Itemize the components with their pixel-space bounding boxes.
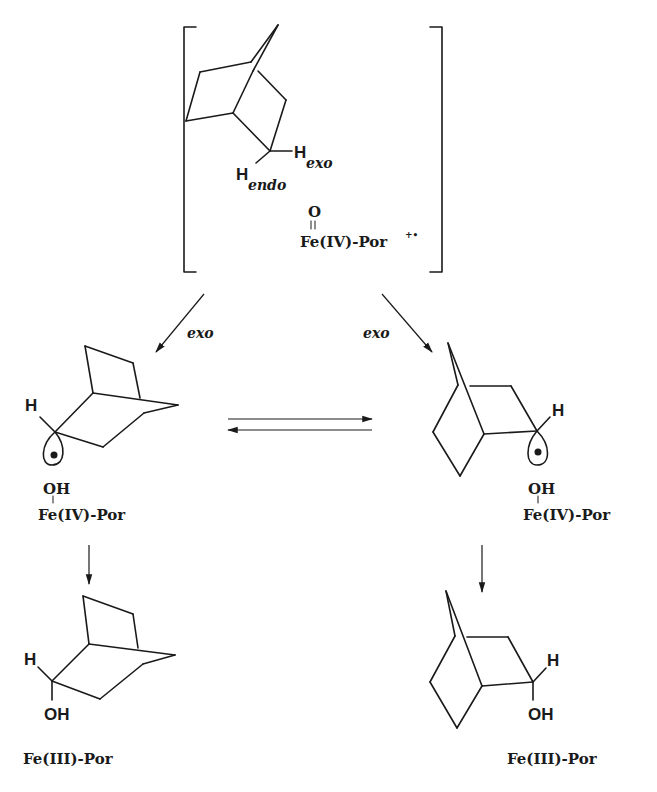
left-exo-label: exo: [187, 325, 214, 341]
reaction-scheme: H exo H endo O Fe(IV)-Por +• exo exo H O…: [0, 0, 657, 792]
right-radical-oh-label: OH: [528, 480, 555, 498]
right-radical-iron-label: Fe(IV)-Por: [523, 506, 611, 524]
norbornanol-left: [38, 596, 175, 700]
norbornane-structure-top: [186, 25, 292, 163]
radical-cation-superscript: +•: [405, 230, 418, 240]
right-exo-label: exo: [363, 325, 390, 341]
arrow-to-left-radical: [156, 294, 204, 352]
unpaired-electron-dot: [535, 449, 542, 456]
left-radical-oh-label: OH: [43, 480, 70, 498]
left-radical-h-label: H: [25, 396, 37, 415]
equilibrium-arrows: [228, 419, 372, 430]
left-product-h-label: H: [24, 650, 36, 669]
left-bracket: [184, 27, 196, 272]
right-bracket: [430, 27, 442, 272]
h-endo-subscript: endo: [248, 177, 286, 193]
arrow-to-right-radical: [382, 294, 432, 352]
left-product-iron-label: Fe(III)-Por: [23, 750, 114, 768]
right-product-iron-label: Fe(III)-Por: [507, 750, 598, 768]
h-endo-label: H: [236, 165, 248, 184]
left-radical-iron-label: Fe(IV)-Por: [38, 506, 126, 524]
oxo-label: O: [308, 203, 321, 221]
iron-oxo-porphyrin-label: Fe(IV)-Por: [300, 233, 388, 251]
h-exo-label: H: [294, 143, 306, 162]
unpaired-electron-dot: [51, 452, 58, 459]
right-product-h-label: H: [547, 651, 559, 670]
right-product-oh-label: OH: [528, 705, 554, 724]
left-product-oh-label: OH: [44, 705, 70, 724]
norbornane-radical-right: [433, 343, 550, 476]
h-exo-subscript: exo: [306, 155, 333, 171]
right-radical-h-label: H: [552, 401, 564, 420]
norbornane-radical-left: [40, 346, 178, 465]
oxo-double-bond: [311, 221, 315, 229]
